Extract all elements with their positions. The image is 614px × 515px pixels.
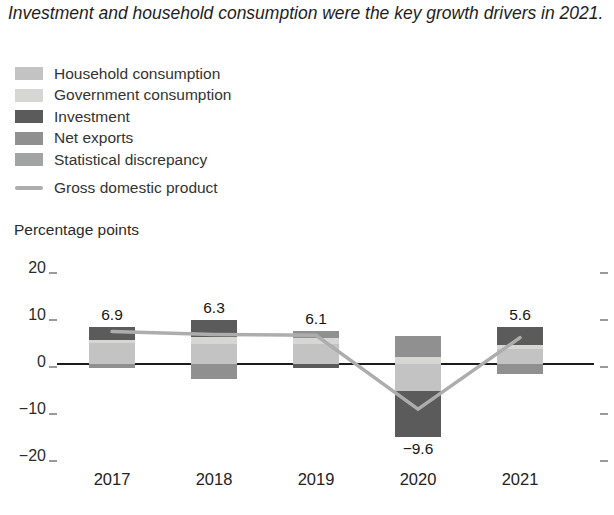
y-tick-mark-right — [600, 413, 608, 415]
bar-segment — [497, 327, 543, 345]
bar-segment — [89, 327, 135, 340]
y-tick-mark-right — [600, 460, 608, 462]
bar-segment — [191, 320, 237, 337]
legend-item-household: Household consumption — [15, 63, 231, 85]
bar-segment — [293, 338, 339, 344]
bar-segment — [191, 337, 237, 344]
legend-label: Household consumption — [54, 65, 220, 83]
gdp-value-label: 6.9 — [82, 306, 142, 324]
investment-swatch-icon — [15, 110, 43, 123]
y-axis-title: Percentage points — [14, 221, 139, 239]
gdp-value-label: 5.6 — [490, 306, 550, 324]
bar-segment — [497, 364, 543, 374]
bar-segment — [191, 364, 237, 379]
y-tick-label: 0 — [6, 352, 46, 372]
net-exports-swatch-icon — [15, 132, 43, 145]
y-tick-mark — [49, 366, 57, 368]
y-tick-label: −10 — [6, 399, 46, 419]
bar-segment — [395, 391, 441, 437]
bar-segment — [293, 331, 339, 338]
figure-title: Investment and household consumption wer… — [8, 2, 608, 25]
legend-item-stat-discrepancy: Statistical discrepancy — [15, 149, 231, 171]
legend-item-gdp: Gross domestic product — [15, 178, 231, 200]
legend-item-net-exports: Net exports — [15, 128, 231, 150]
x-axis-year-label: 2019 — [274, 470, 358, 489]
gdp-value-label: 6.1 — [286, 310, 346, 328]
gdp-value-label: −9.6 — [388, 440, 448, 458]
bar-segment — [395, 364, 441, 391]
x-axis-year-label: 2020 — [376, 470, 460, 489]
legend-item-government: Government consumption — [15, 85, 231, 107]
legend-item-investment: Investment — [15, 106, 231, 128]
y-tick-mark-right — [600, 272, 608, 274]
legend-label: Investment — [54, 108, 130, 126]
figure-panel: Investment and household consumption wer… — [0, 0, 614, 515]
legend-label: Statistical discrepancy — [54, 151, 207, 169]
y-tick-label: −20 — [6, 446, 46, 466]
y-tick-mark-right — [600, 366, 608, 368]
bar-segment — [89, 364, 135, 368]
y-tick-mark — [49, 460, 57, 462]
legend-label: Gross domestic product — [54, 179, 218, 197]
legend: Household consumption Government consump… — [15, 63, 231, 199]
legend-label: Government consumption — [54, 86, 231, 104]
y-tick-label: 20 — [6, 258, 46, 278]
bar-segment — [89, 343, 135, 364]
bar-segment — [89, 340, 135, 343]
gdp-value-label: 6.3 — [184, 299, 244, 317]
y-tick-mark — [49, 319, 57, 321]
y-tick-mark-right — [600, 319, 608, 321]
bar-segment — [191, 344, 237, 364]
bar-segment — [497, 345, 543, 349]
y-tick-label: 10 — [6, 305, 46, 325]
bar-segment — [497, 349, 543, 364]
x-axis-year-label: 2018 — [172, 470, 256, 489]
legend-label: Net exports — [54, 129, 133, 147]
x-axis-year-label: 2021 — [478, 470, 562, 489]
bar-segment — [395, 357, 441, 364]
stat-discrepancy-swatch-icon — [15, 153, 43, 166]
household-swatch-icon — [15, 67, 43, 80]
x-axis-year-label: 2017 — [70, 470, 154, 489]
y-tick-mark — [49, 413, 57, 415]
bar-segment — [395, 336, 441, 357]
government-swatch-icon — [15, 89, 43, 102]
bar-segment — [293, 344, 339, 364]
bar-segment — [293, 364, 339, 368]
gdp-line-swatch-icon — [15, 186, 43, 190]
y-tick-mark — [49, 272, 57, 274]
